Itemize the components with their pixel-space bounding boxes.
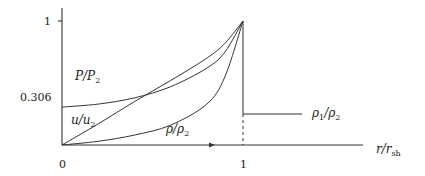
label-u-u2: u/u2 [71, 113, 96, 129]
label-rho1-rho2: ρ1/ρ2 [311, 106, 340, 122]
x-tick-label-1: 1 [240, 158, 247, 171]
x-tick-label-0: 0 [59, 158, 66, 171]
label-P-P2: P/P2 [74, 69, 100, 85]
shock-profile-diagram: 1 0.306 0 1 P/P2 u/u2 ρ/ρ2 ρ1/ρ2 r/rsh [0, 0, 425, 176]
y-tick-label-0306: 0.306 [20, 91, 52, 104]
y-tick-label-1: 1 [44, 15, 51, 28]
label-rho-rho2: ρ/ρ2 [165, 122, 189, 138]
x-axis-label: r/rsh [376, 142, 401, 158]
x-axis-arrow-icon [209, 143, 215, 148]
